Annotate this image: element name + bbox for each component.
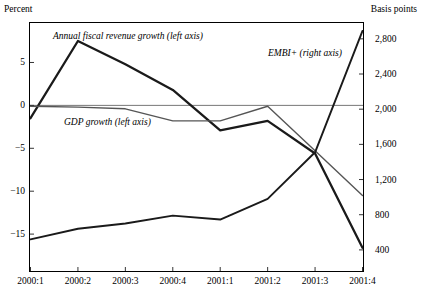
series-label-embi: EMBI+ (right axis) — [268, 48, 342, 59]
series-line-embi — [31, 31, 363, 239]
left-tick-label: −10 — [4, 186, 25, 196]
right-tick-label: 2,800 — [375, 34, 396, 44]
right-tick-label: 800 — [375, 210, 389, 220]
x-tick-label: 2001:4 — [349, 276, 375, 287]
right-tick-label: 2,400 — [375, 69, 396, 79]
left-axis-title: Percent — [4, 4, 33, 15]
left-tick-label: −5 — [4, 143, 25, 153]
left-tick-label: 0 — [4, 100, 25, 110]
x-tick-label: 2001:3 — [302, 276, 328, 287]
left-axis-tick-labels: 50−5−10−15 — [0, 22, 25, 272]
left-tick-label: −15 — [4, 229, 25, 239]
x-tick-label: 2000:1 — [17, 276, 43, 287]
x-tick-label: 2000:3 — [112, 276, 138, 287]
right-tick-label: 1,600 — [375, 139, 396, 149]
series-label-gdp: GDP growth (left axis) — [64, 117, 151, 128]
plot-area — [29, 22, 364, 272]
chart-figure: Percent Basis points 50−5−10−15 2,8002,4… — [0, 0, 421, 304]
right-tick-label: 400 — [375, 245, 389, 255]
x-axis-tick-labels: 2000:12000:22000:32000:42001:12001:22001… — [29, 276, 364, 296]
right-tick-label: 2,000 — [375, 104, 396, 114]
x-tick-label: 2001:2 — [254, 276, 280, 287]
right-tick-label: 1,200 — [375, 175, 396, 185]
plot-svg — [30, 23, 363, 271]
right-axis-tick-labels: 2,8002,4002,0001,6001,200800400 — [369, 22, 419, 272]
right-axis-title: Basis points — [371, 4, 417, 15]
series-label-fiscal: Annual fiscal revenue growth (left axis) — [53, 31, 203, 42]
x-tick-label: 2000:4 — [160, 276, 186, 287]
x-tick-label: 2001:1 — [207, 276, 233, 287]
x-tick-label: 2000:2 — [65, 276, 91, 287]
left-tick-label: 5 — [4, 57, 25, 67]
